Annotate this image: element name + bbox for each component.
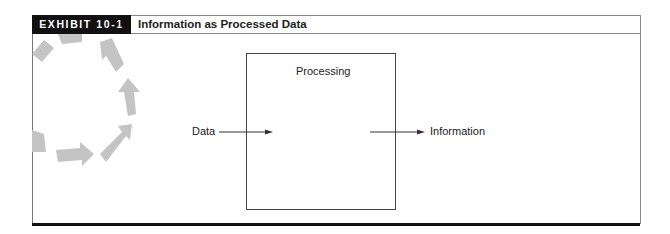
bottom-rule	[32, 223, 640, 226]
flow-arrows	[0, 0, 670, 234]
data-arrow-icon	[219, 130, 273, 135]
information-arrow-icon	[370, 130, 425, 135]
